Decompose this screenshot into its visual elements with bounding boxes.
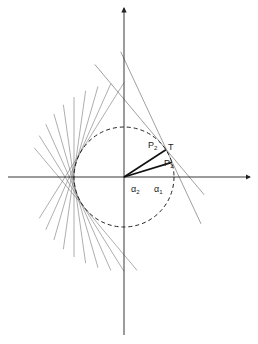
tangent-lines: [34, 52, 204, 272]
label-alpha2: α2: [131, 184, 140, 195]
radius-line: [124, 150, 166, 177]
tangent-line: [95, 64, 204, 194]
label-t: T: [168, 142, 174, 152]
diagram: P2 T P1 α2 α1: [0, 0, 258, 344]
tangent-line: [121, 52, 201, 224]
label-alpha1: α1: [154, 184, 163, 195]
label-p2: P2: [148, 140, 158, 151]
label-p1: P1: [164, 158, 174, 169]
